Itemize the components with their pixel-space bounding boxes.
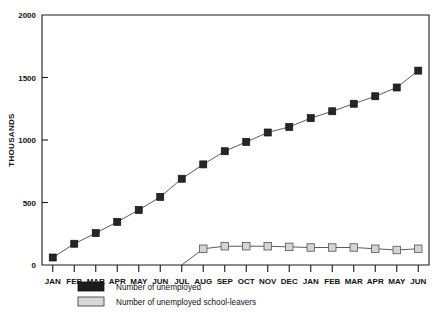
data-point-marker: [157, 193, 164, 200]
y-tick-label: 1500: [18, 74, 36, 83]
data-point-marker: [243, 243, 251, 251]
x-tick-label: MAR: [345, 277, 363, 286]
legend-swatch-2: [78, 297, 104, 306]
data-point-marker: [114, 218, 121, 225]
legend-swatch-1: [78, 282, 104, 291]
series-2: [182, 243, 422, 266]
x-tick-label: MAY: [388, 277, 406, 286]
data-point-marker: [200, 245, 208, 253]
series-line: [182, 246, 419, 265]
data-point-marker: [221, 148, 228, 155]
data-point-marker: [329, 244, 337, 252]
data-point-marker: [135, 207, 142, 214]
plot-frame: [42, 15, 429, 265]
y-tick-label: 2000: [18, 11, 36, 20]
data-point-marker: [243, 138, 250, 145]
data-point-marker: [286, 123, 293, 130]
y-tick-label: 500: [23, 199, 37, 208]
x-tick-label: DEC: [281, 277, 298, 286]
legend-label-2: Number of unemployed school-leavers: [116, 298, 256, 307]
data-point-marker: [372, 93, 379, 100]
data-point-marker: [393, 246, 401, 254]
series-1: [49, 67, 422, 261]
y-tick-label: 0: [32, 261, 37, 270]
data-point-marker: [350, 244, 358, 252]
x-tick-label: NOV: [259, 277, 277, 286]
y-axis: 0500100015002000: [18, 11, 48, 270]
data-point-marker: [200, 161, 207, 168]
legend-label-1: Number of unemployed: [116, 283, 202, 292]
y-axis-title: THOUSANDS: [7, 113, 16, 167]
data-point-marker: [329, 108, 336, 115]
data-point-marker: [393, 84, 400, 91]
data-point-marker: [307, 115, 314, 122]
data-point-marker: [264, 129, 271, 136]
x-tick-label: APR: [367, 277, 384, 286]
data-point-marker: [264, 243, 272, 251]
x-tick-label: FEB: [324, 277, 340, 286]
data-point-marker: [286, 243, 294, 251]
x-tick-label: OCT: [238, 277, 255, 286]
data-point-marker: [71, 240, 78, 247]
data-point-marker: [415, 245, 423, 253]
data-point-marker: [49, 254, 56, 261]
x-tick-label: SEP: [217, 277, 234, 286]
chart-canvas: 0500100015002000THOUSANDSJANFEBMARAPRMAY…: [0, 0, 438, 320]
data-point-marker: [415, 67, 422, 74]
data-point-marker: [372, 245, 380, 253]
x-tick-label: JAN: [303, 277, 319, 286]
data-point-marker: [350, 100, 357, 107]
data-point-marker: [221, 243, 229, 251]
y-tick-label: 1000: [18, 136, 36, 145]
unemployment-line-chart: 0500100015002000THOUSANDSJANFEBMARAPRMAY…: [0, 0, 438, 320]
series-line: [53, 71, 419, 258]
x-tick-label: JUN: [410, 277, 426, 286]
data-point-marker: [92, 230, 99, 237]
x-tick-label: JAN: [45, 277, 61, 286]
data-point-marker: [307, 244, 315, 252]
data-point-marker: [178, 175, 185, 182]
